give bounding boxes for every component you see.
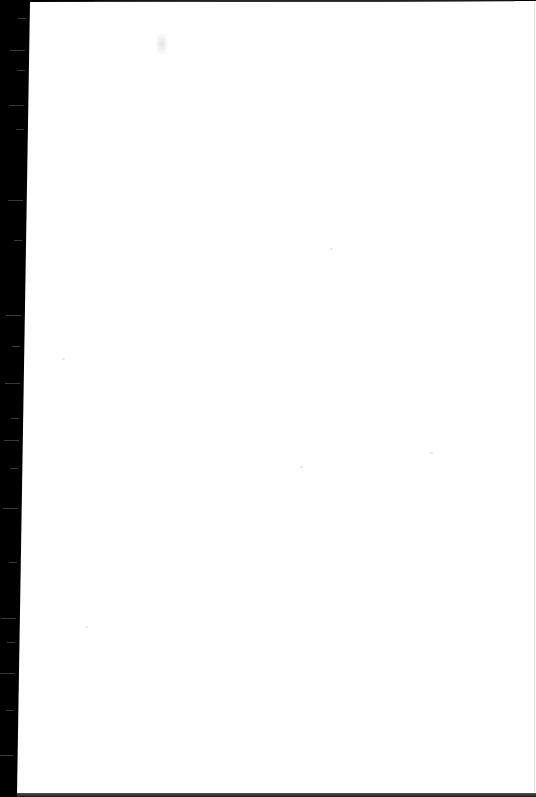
faint-mark [62,358,65,360]
page-bottom-edge [17,793,536,797]
scanner-streak [16,129,24,130]
scanner-streak [3,508,18,509]
faint-mark [330,248,333,250]
scanner-streak [9,105,24,106]
faint-mark [430,452,433,454]
faint-mark [85,626,88,628]
scanner-streak [0,755,13,756]
scanner-streak [8,200,23,201]
scanner-streak [6,710,14,711]
scanner-streak [18,18,26,19]
scanner-streak [14,240,22,241]
scanner-streak [12,346,20,347]
faint-mark [300,466,303,468]
page-top-edge [95,0,515,2]
scanner-streak [10,468,18,469]
scanner-streak [10,50,25,51]
scanner-streak [5,383,20,384]
blank-page [0,0,536,797]
scanner-streak [7,642,15,643]
scanner-streak [1,618,16,619]
scanner-streak [6,315,21,316]
scanner-streak [4,440,19,441]
scanned-document [0,0,536,797]
page-right-edge [534,2,535,792]
scanner-streak [9,562,17,563]
bleed-through-smudge [156,33,168,55]
scanner-streak [17,70,25,71]
scanner-streak [0,673,15,674]
scanner-streak [11,418,19,419]
